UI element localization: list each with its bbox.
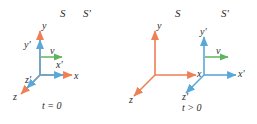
frame-S-axes	[134, 31, 196, 96]
axis-label-y: y	[42, 21, 46, 31]
frame-label-S: S	[60, 8, 66, 19]
velocity-label: v	[50, 46, 54, 56]
axis-label-z-prime: z′	[182, 92, 188, 102]
frame-label-S-prime: S′	[221, 8, 229, 19]
axis-label-y-prime: y′	[200, 27, 207, 37]
axis-label-z: z	[13, 92, 17, 102]
panel-t-greater-than-zero: S S′ y x z y′ x′ z′ v t > 0	[128, 0, 257, 124]
panel-t-equals-zero: S S′ y x z y′ x′ z′ v t = 0	[0, 0, 129, 124]
axis-label-y: y	[157, 21, 161, 31]
reference-frames-figure: S S′ y x z y′ x′ z′ v t = 0	[0, 0, 257, 124]
frame-S-prime-axes	[186, 37, 236, 93]
time-label-tgt0: t > 0	[182, 103, 202, 113]
axis-label-z: z	[129, 95, 133, 105]
axis-z-arrow	[134, 75, 155, 96]
frame-label-S: S	[175, 8, 181, 19]
axis-label-x: x	[197, 69, 201, 79]
axis-label-x: x	[74, 71, 78, 81]
axis-label-z-prime: z′	[25, 75, 31, 85]
time-label-t0: t = 0	[42, 101, 62, 111]
axis-label-x-prime: x′	[56, 60, 63, 70]
axis-label-y-prime: y′	[24, 40, 31, 50]
velocity-label: v	[216, 46, 220, 56]
frame-label-S-prime: S′	[83, 8, 91, 19]
axis-label-x-prime: x′	[238, 69, 245, 79]
